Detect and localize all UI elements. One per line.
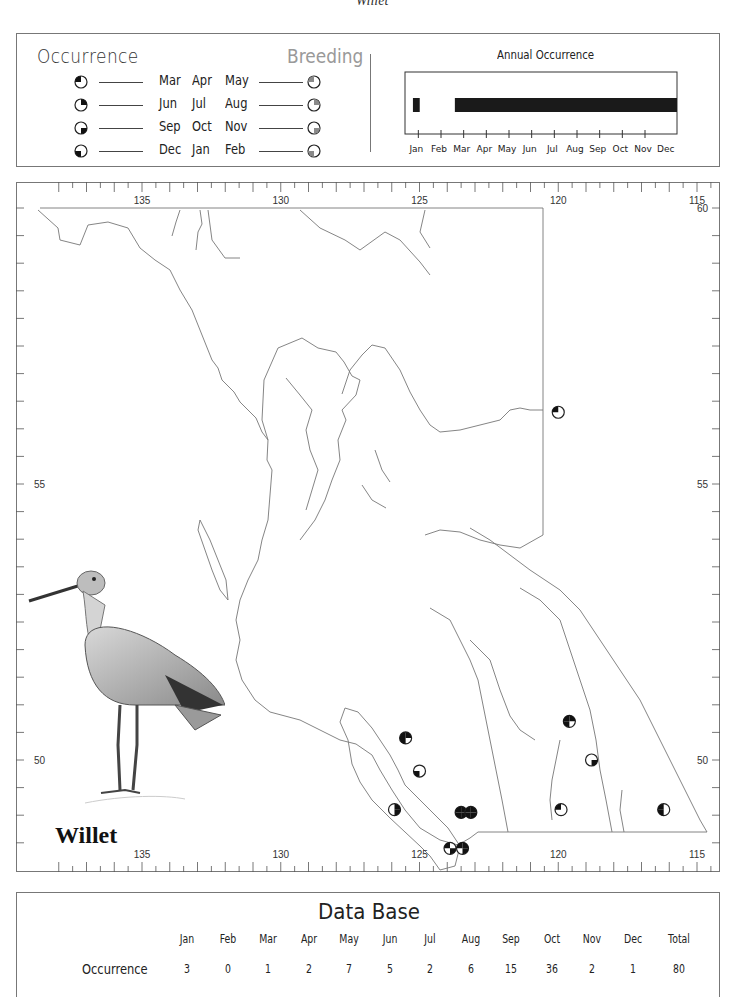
database-title: Data Base [52, 899, 686, 924]
database-panel: Data Base Jan3Feb0Mar1Apr2May7Jun5Jul2Au… [16, 892, 720, 997]
lon-tick-label: 135 [134, 849, 151, 860]
lon-tick-label: 115 [689, 849, 705, 860]
database-cell: 6 [456, 961, 485, 976]
columbia-river [520, 588, 612, 832]
lon-tick-label: 125 [411, 195, 428, 206]
occurrence-marker [389, 804, 401, 816]
database-cell: 2 [416, 961, 445, 976]
lon-tick-label: 135 [134, 195, 151, 206]
interior-outline-1 [262, 338, 360, 540]
database-cell: 7 [335, 961, 364, 976]
database-column-header: Sep [497, 931, 526, 946]
river-north-2 [196, 210, 202, 250]
interior-outline-3 [425, 530, 543, 548]
database-cell: 3 [173, 961, 202, 976]
lon-tick-label: 125 [411, 849, 428, 860]
lat-tick-label: 55 [697, 479, 709, 490]
lat-tick-label: 60 [697, 203, 709, 214]
database-cell: 36 [537, 961, 566, 976]
occurrence-marker [444, 842, 456, 854]
occurrence-marker [552, 406, 564, 418]
database-column-header: Dec [618, 931, 647, 946]
river-north-4 [300, 210, 430, 275]
database-cell: 2 [294, 961, 323, 976]
kootenay-lake [620, 790, 624, 832]
interior-outline-2 [286, 378, 318, 510]
database-column-header: Aug [456, 931, 485, 946]
database-cell: 1 [618, 961, 647, 976]
database-cell: 1 [254, 961, 283, 976]
river-central-1 [375, 450, 390, 482]
occurrence-marker [400, 732, 412, 744]
lon-tick-label: 120 [550, 849, 567, 860]
river-north-3 [208, 210, 240, 258]
database-column-header: Apr [294, 931, 323, 946]
database-cell: 15 [497, 961, 526, 976]
river-north-1 [172, 210, 180, 236]
database-column-header: Mar [254, 931, 283, 946]
database-cell: 5 [375, 961, 404, 976]
database-column-header: Jun [375, 931, 404, 946]
occurrence-marker [555, 804, 567, 816]
rocky-trench [470, 528, 707, 832]
panhandle-coast [38, 210, 272, 560]
database-column-header: Jan [173, 931, 202, 946]
occurrence-marker [465, 806, 477, 818]
occurrence-markers [389, 406, 670, 854]
river-peace [342, 345, 543, 432]
lon-tick-label: 130 [272, 195, 289, 206]
willet-illustration-icon [25, 555, 225, 815]
database-cell: 80 [665, 961, 694, 976]
occurrence-marker [563, 715, 575, 727]
central-coast [236, 560, 478, 845]
database-column-header: Nov [578, 931, 607, 946]
occurrence-marker [658, 804, 670, 816]
database-column-header: Feb [213, 931, 242, 946]
database-cell: 0 [213, 961, 242, 976]
occurrence-marker [586, 754, 598, 766]
lat-tick-label: 50 [697, 755, 709, 766]
database-column-header: Jul [416, 931, 445, 946]
database-row-label: Occurrence [82, 961, 148, 977]
database-column-header: Oct [537, 931, 566, 946]
database-cell: 2 [578, 961, 607, 976]
vancouver-island [340, 708, 460, 870]
lat-tick-label: 55 [34, 479, 46, 490]
occurrence-marker [414, 765, 426, 777]
river-central-2 [362, 485, 386, 508]
database-column-header: Total [665, 931, 694, 946]
lon-tick-label: 120 [550, 195, 567, 206]
river-fraser [430, 608, 508, 832]
occurrence-marker [457, 842, 469, 854]
river-north-5 [420, 210, 430, 248]
species-label: Willet [55, 822, 117, 849]
database-column-header: May [335, 931, 364, 946]
lon-tick-label: 130 [272, 849, 289, 860]
